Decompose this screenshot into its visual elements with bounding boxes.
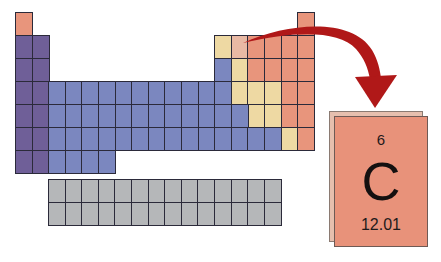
element-cell-lanthanide bbox=[264, 202, 282, 226]
element-cell-lanthanide bbox=[214, 202, 232, 226]
element-cell-lanthanide bbox=[247, 202, 265, 226]
element-cell-lanthanide bbox=[131, 202, 149, 226]
element-cell-lanthanide bbox=[114, 202, 132, 226]
element-cell-lanthanide bbox=[197, 202, 215, 226]
element-cell-lanthanide bbox=[164, 202, 182, 226]
element-cell-lanthanide bbox=[48, 202, 66, 226]
element-symbol: C bbox=[335, 151, 427, 211]
element-cell-lanthanide bbox=[247, 179, 265, 203]
element-cell-lanthanide bbox=[48, 179, 66, 203]
element-cell-lanthanide bbox=[81, 179, 99, 203]
element-card-carbon: 6 C 12.01 bbox=[334, 116, 428, 247]
element-cell-lanthanide bbox=[214, 179, 232, 203]
atomic-mass: 12.01 bbox=[335, 216, 427, 234]
element-cell-lanthanide bbox=[197, 179, 215, 203]
element-cell-lanthanide bbox=[164, 179, 182, 203]
element-cell-lanthanide bbox=[81, 202, 99, 226]
element-cell-lanthanide bbox=[264, 179, 282, 203]
element-cell-lanthanide bbox=[131, 179, 149, 203]
atomic-number: 6 bbox=[335, 131, 427, 148]
element-cell-lanthanide bbox=[114, 179, 132, 203]
